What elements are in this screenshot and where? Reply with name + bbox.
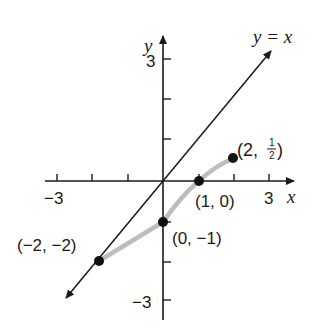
point-label-2-half: (2, 1 2 ) bbox=[237, 137, 283, 161]
svg-text:(2,: (2, bbox=[237, 140, 258, 160]
x-tick-label-3: 3 bbox=[264, 189, 273, 208]
graph: x y −3 3 3 −3 y = x (−2, −2) (0, −1) (1,… bbox=[0, 0, 313, 327]
point-label-neg2-neg2: (−2, −2) bbox=[17, 236, 77, 255]
point-0-neg1 bbox=[158, 217, 168, 227]
x-axis-label: x bbox=[286, 186, 296, 207]
identity-line bbox=[163, 51, 271, 181]
y-tick-label-3: 3 bbox=[146, 52, 155, 71]
svg-text:): ) bbox=[277, 140, 283, 160]
identity-line-label: y = x bbox=[251, 26, 293, 47]
y-tick-label-neg3: −3 bbox=[132, 293, 151, 312]
point-1-0 bbox=[194, 176, 204, 186]
svg-text:1: 1 bbox=[269, 137, 275, 148]
point-label-0-neg1: (0, −1) bbox=[172, 229, 222, 248]
point-neg2-neg2 bbox=[94, 256, 104, 266]
identity-line-lower bbox=[66, 181, 163, 298]
svg-text:2: 2 bbox=[269, 150, 275, 161]
x-tick-label-neg3: −3 bbox=[44, 189, 63, 208]
point-label-1-0: (1, 0) bbox=[195, 192, 235, 211]
